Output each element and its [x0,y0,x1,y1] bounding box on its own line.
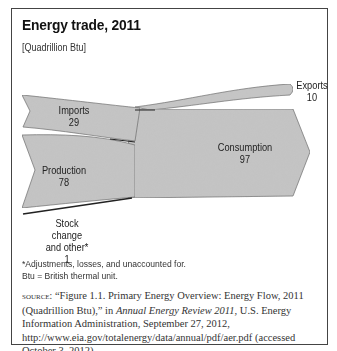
footnote-adjustments: *Adjustments, losses, and unaccounted fo… [22,258,186,269]
consumption-label: Consumption 97 [218,141,273,165]
source-prefix: source: [22,291,52,301]
production-label: Production 78 [41,164,87,188]
exports-band [135,84,293,110]
exports-label: Exports 10 [296,79,328,103]
imports-label: Imports 29 [55,104,94,128]
source-publication: Annual Energy Review 2011 [116,305,235,316]
footnote-btu: Btu = British thermal unit. [22,270,118,281]
source-citation: source: “Figure 1.1. Primary Energy Over… [22,289,322,351]
